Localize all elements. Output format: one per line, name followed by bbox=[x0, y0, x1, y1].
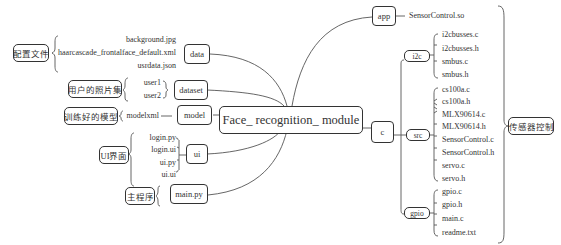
folder-label: i2c bbox=[412, 52, 421, 61]
file-item: cs100a.c bbox=[442, 86, 470, 94]
file-main-py[interactable]: main.py bbox=[170, 184, 208, 204]
file-item: usrdata.json bbox=[138, 62, 176, 70]
file-item: SensorControl.h bbox=[442, 149, 494, 157]
file-item: gpio.h bbox=[442, 201, 462, 209]
annotation-sensor-control: 传感器控制 bbox=[508, 117, 554, 135]
folder-ui[interactable]: ui bbox=[186, 144, 208, 164]
file-item: readme.txt bbox=[442, 229, 476, 237]
folder-src[interactable]: src bbox=[406, 129, 430, 141]
annotation-label: 配置文件 bbox=[13, 47, 49, 59]
folder-dataset[interactable]: dataset bbox=[174, 80, 208, 100]
file-item: main.c bbox=[442, 215, 464, 223]
folder-c[interactable]: c bbox=[371, 121, 394, 143]
annotation-label: 用户的照片集 bbox=[68, 83, 122, 95]
file-item: ui.ui bbox=[162, 171, 176, 179]
folder-label: data bbox=[190, 49, 204, 59]
file-item: SensorControl.c bbox=[442, 136, 494, 144]
file-item: i2cbusses.h bbox=[442, 45, 479, 53]
annotation-trained-model: 训练好的模型 bbox=[64, 107, 118, 125]
file-item: servo.h bbox=[442, 175, 465, 183]
root-node[interactable]: Face_ recognition_ module bbox=[219, 106, 363, 134]
root-label: Face_ recognition_ module bbox=[223, 113, 360, 128]
file-item: smbus.c bbox=[442, 58, 468, 66]
folder-label: c bbox=[381, 127, 385, 137]
folder-label: gpio bbox=[410, 209, 423, 218]
folder-data[interactable]: data bbox=[184, 44, 210, 64]
file-item: user1 bbox=[144, 79, 161, 87]
folder-model[interactable]: model bbox=[177, 105, 212, 125]
folder-label: app bbox=[378, 11, 390, 21]
folder-label: src bbox=[414, 131, 423, 140]
annotation-ui: UI界面 bbox=[99, 146, 129, 164]
file-item: user2 bbox=[144, 92, 161, 100]
folder-label: model bbox=[184, 110, 205, 120]
file-item: cs100a.h bbox=[442, 98, 470, 106]
annotation-label: 传感器控制 bbox=[509, 120, 554, 132]
folder-app[interactable]: app bbox=[372, 6, 396, 26]
file-item: login.ui bbox=[151, 146, 176, 154]
annotation-config-files: 配置文件 bbox=[13, 44, 49, 62]
file-item: login.py bbox=[150, 134, 176, 142]
file-item: background.jpg bbox=[126, 36, 176, 44]
file-item: i2cbusses.c bbox=[442, 31, 478, 39]
file-item: MLX90614.c bbox=[442, 111, 485, 119]
annotation-label: UI界面 bbox=[101, 149, 128, 161]
file-item: servo.c bbox=[442, 162, 465, 170]
file-item: ui.py bbox=[160, 159, 176, 167]
folder-gpio[interactable]: gpio bbox=[404, 207, 430, 219]
annotation-label: 训练好的模型 bbox=[64, 110, 118, 122]
folder-label: main.py bbox=[175, 189, 203, 199]
folder-label: dataset bbox=[179, 85, 203, 95]
annotation-main-program: 主程序 bbox=[125, 187, 155, 205]
file-item: gpio.c bbox=[442, 188, 462, 196]
annotation-label: 主程序 bbox=[127, 190, 154, 202]
file-item: MLX90614.h bbox=[442, 123, 486, 131]
annotation-user-photos: 用户的照片集 bbox=[68, 80, 122, 98]
folder-label: ui bbox=[194, 149, 201, 159]
file-item: smbus.h bbox=[442, 71, 468, 79]
file-item: modelxml bbox=[127, 112, 159, 120]
file-item: SensorControl.so bbox=[409, 12, 464, 20]
folder-i2c[interactable]: i2c bbox=[404, 50, 430, 62]
file-item: haarcascade_frontalface_default.xml bbox=[58, 49, 176, 57]
